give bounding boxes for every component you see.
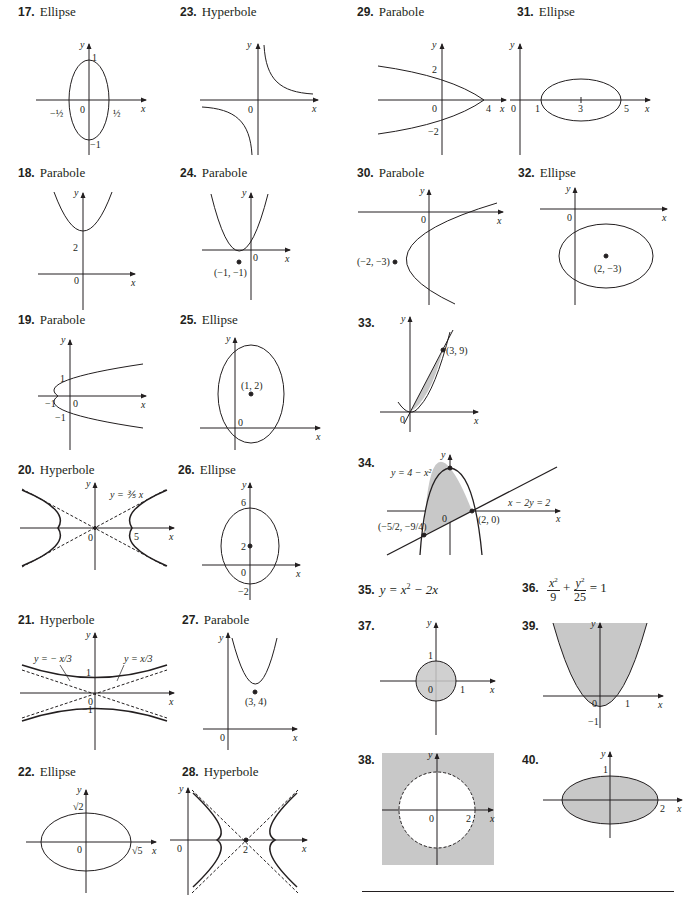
center-label: (2, −3) [594,263,621,275]
y-axis-label: y [565,183,571,194]
x-axis-label: x [489,684,495,695]
graph-22-ellipse [26,790,156,893]
tick-label: 0 [432,103,437,114]
tick-label: 0 [88,532,93,543]
hyperbola-branch-upper [264,45,313,94]
tick-label: 1 [86,667,91,678]
y-axis-label: y [241,187,247,198]
annotation-pointer-left [60,665,70,681]
center-point [604,254,608,258]
tick-label: ½ [113,108,121,119]
x-axis-label: x [555,513,561,524]
asymptote-label: y = x/3 [123,653,152,664]
graph-39-region [543,623,663,728]
y-axis-label: y [600,748,606,759]
tick-label: 0 [77,844,82,855]
x-axis-label: x [496,215,502,226]
tick-label: 1 [460,684,465,695]
tick-label: 0 [421,214,426,225]
parabola-curve [398,332,450,412]
tick-label: 0 [511,103,516,114]
graph-18-parabola [38,192,135,310]
tick-label: √2 [73,801,84,812]
graph-32-ellipse [540,188,667,305]
x-axis-label: x [284,253,290,264]
tick-label: 4 [486,103,491,114]
tick-label: 0 [80,104,85,115]
tick-label: −1 [588,716,599,727]
point-label: (2, 0) [478,514,500,526]
intersection-point [441,348,445,352]
tick-label: 0 [241,567,246,578]
line-label: x − 2y = 2 [507,497,550,508]
graph-19-parabola [38,340,146,450]
graph-21-hyperbola [20,633,174,750]
x-axis-label: x [140,399,146,410]
x-axis-label: x [676,803,682,814]
tick-label: −½ [50,108,64,119]
tick-label: 1 [535,103,540,114]
graph-26-ellipse [202,483,300,600]
tick-label: 0 [220,732,225,743]
parabola-curve [211,194,268,251]
center-point [248,544,252,548]
vertex-label: (−1, −1) [214,267,247,279]
tick-label: 6 [241,497,246,508]
tick-label: 0 [428,684,433,695]
point-label: (−5/2, −9/4) [378,521,427,533]
x-axis-label: x [499,103,505,114]
x-axis-label: x [130,277,136,288]
tick-label: 1 [428,650,433,661]
vertex-point [237,260,241,264]
tick-label: 0 [248,104,253,115]
x-axis-label: x [315,431,321,442]
point-label: (3, 9) [446,345,468,357]
tick-label: 0 [429,813,434,824]
tick-label: 2 [73,242,78,253]
graph-30-parabola [358,190,503,305]
intersection-point-left [422,533,426,537]
tick-label: 1 [60,373,65,384]
y-axis-label: y [85,478,91,489]
graph-23-hyperbola [200,44,318,155]
hyperbola-branch-lower [202,107,252,155]
graph-31-ellipse [510,44,650,155]
graphs-canvas: y x 1 −1 0 −½ ½ y x 0 y x 2 −2 0 4 y x 0… [0,0,694,906]
annotation-pointer-right [117,665,124,681]
tick-label: 0 [567,212,572,223]
x-axis-label: x [311,103,317,114]
x-axis-label: x [473,415,479,426]
tick-label: −2 [428,126,439,137]
parabola-curve [406,203,497,304]
graph-40-ellipse-region [543,752,682,838]
tick-label: 1 [625,698,630,709]
x-axis-label: x [301,843,307,854]
y-axis-label: y [419,185,425,196]
graph-27-parabola [203,633,297,750]
x-axis-label: x [657,699,663,710]
parabola-curve [232,638,277,684]
y-axis-label: y [85,629,91,640]
tick-label: −1 [90,139,101,150]
tick-label: 0 [88,696,93,707]
tick-label: 0 [74,275,79,286]
tick-label: −1 [55,412,66,423]
tick-label: 0 [73,398,78,409]
tick-label: 5 [134,531,139,542]
tick-label: −2 [238,586,249,597]
y-axis-label: y [440,449,446,460]
bottom-rule-divider [362,891,674,892]
y-axis-label: y [178,783,184,794]
vertex-label: (−2, −3) [357,256,390,268]
origin-point [94,527,97,530]
intersection-point-right [470,509,474,513]
y-axis-label: y [400,313,406,324]
tick-label: 2 [241,541,246,552]
tick-label: −1 [45,398,56,409]
tick-label: √5 [132,845,143,856]
x-axis-label: x [168,531,174,542]
y-axis-label: y [76,784,82,795]
disk-region [416,661,456,701]
y-axis-label: y [426,617,432,628]
tick-label: 3 [578,103,583,114]
